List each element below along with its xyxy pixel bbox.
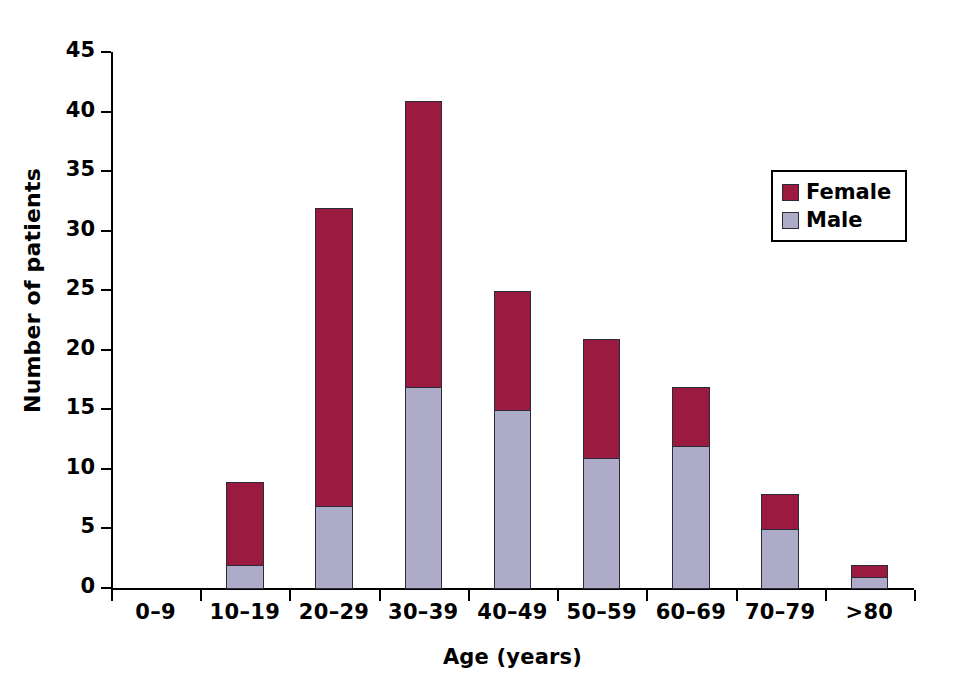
bar-segment-female[interactable] (226, 482, 263, 565)
bar-segment-female[interactable] (851, 565, 888, 577)
bar-stack[interactable] (583, 339, 620, 589)
legend: Female Male (771, 170, 907, 242)
bar-group[interactable] (468, 52, 557, 589)
y-tick-label: 35 (57, 157, 95, 181)
bar-segment-male[interactable] (494, 410, 531, 589)
y-tick-label: 5 (57, 514, 95, 538)
x-tick-label: 60–69 (646, 600, 735, 624)
y-tick-label: 10 (57, 455, 95, 479)
bar-segment-female[interactable] (761, 494, 798, 530)
y-tick (101, 51, 111, 53)
x-tick-label: 10–19 (200, 600, 289, 624)
bar-segment-female[interactable] (672, 387, 709, 447)
y-tick-label: 40 (57, 98, 95, 122)
legend-swatch-female (782, 184, 799, 201)
bar-stack[interactable] (494, 291, 531, 589)
y-tick (101, 170, 111, 172)
bar-stack[interactable] (226, 482, 263, 589)
y-tick (101, 527, 111, 529)
y-axis-title: Number of patients (20, 161, 45, 421)
legend-swatch-male (782, 212, 799, 229)
bar-group[interactable] (289, 52, 378, 589)
x-tick-label: 0–9 (111, 600, 200, 624)
y-tick-label: 30 (57, 217, 95, 241)
x-tick (914, 590, 916, 601)
bar-group[interactable] (111, 52, 200, 589)
y-tick-label: 20 (57, 336, 95, 360)
x-axis-title: Age (years) (111, 645, 914, 669)
bar-stack[interactable] (851, 565, 888, 589)
y-tick (101, 230, 111, 232)
x-tick-label: >80 (825, 600, 914, 624)
bar-segment-male[interactable] (851, 577, 888, 589)
legend-label-male: Male (806, 210, 863, 231)
bar-segment-female[interactable] (583, 339, 620, 458)
y-tick (101, 289, 111, 291)
bar-segment-male[interactable] (672, 446, 709, 589)
bar-segment-male[interactable] (315, 506, 352, 589)
bar-segment-male[interactable] (226, 565, 263, 589)
bar-series-group (111, 52, 914, 589)
bar-group[interactable] (825, 52, 914, 589)
x-tick-label: 50–59 (557, 600, 646, 624)
x-tick-label: 30–39 (379, 600, 468, 624)
y-tick (101, 468, 111, 470)
bar-group[interactable] (379, 52, 468, 589)
x-tick-label: 40–49 (468, 600, 557, 624)
bar-segment-female[interactable] (405, 101, 442, 387)
y-tick-label: 15 (57, 395, 95, 419)
legend-item-female[interactable]: Female (782, 178, 891, 206)
bar-group[interactable] (736, 52, 825, 589)
y-tick-label: 0 (57, 574, 95, 598)
bar-group[interactable] (200, 52, 289, 589)
bar-stack[interactable] (761, 494, 798, 589)
y-tick (101, 349, 111, 351)
bar-segment-male[interactable] (761, 529, 798, 589)
x-tick-label: 70–79 (736, 600, 825, 624)
bar-segment-male[interactable] (583, 458, 620, 589)
bar-group[interactable] (557, 52, 646, 589)
bar-stack[interactable] (315, 208, 352, 589)
y-tick (101, 587, 111, 589)
bar-stack[interactable] (405, 101, 442, 589)
legend-label-female: Female (806, 182, 891, 203)
bar-group[interactable] (646, 52, 735, 589)
x-tick-label: 20–29 (289, 600, 378, 624)
y-tick-label: 45 (57, 38, 95, 62)
y-tick-label: 25 (57, 276, 95, 300)
legend-item-male[interactable]: Male (782, 206, 891, 234)
y-tick (101, 111, 111, 113)
bar-segment-female[interactable] (494, 291, 531, 410)
bar-segment-male[interactable] (405, 387, 442, 589)
chart-figure: 051015202530354045 Number of patients Ag… (0, 0, 963, 683)
bar-stack[interactable] (672, 387, 709, 589)
bar-segment-female[interactable] (315, 208, 352, 506)
y-tick (101, 408, 111, 410)
